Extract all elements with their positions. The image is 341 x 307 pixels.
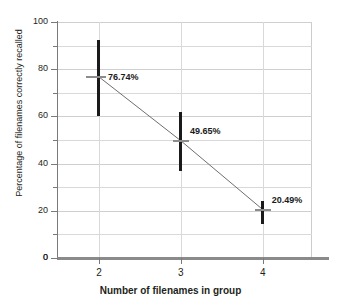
x-axis-tick xyxy=(263,258,264,264)
mean-marker xyxy=(255,209,271,211)
x-axis-line xyxy=(57,257,329,260)
y-axis-tick-label: 60 xyxy=(24,111,48,120)
y-axis-tick-label: 80 xyxy=(24,64,48,73)
y-axis-tick-minor xyxy=(53,46,58,47)
gridline-h xyxy=(58,164,312,165)
y-axis-tick-major xyxy=(51,258,58,259)
chart-container: 0204060801000 234 76.74%49.65%20.49% Per… xyxy=(0,0,341,307)
data-point-value-label: 20.49% xyxy=(272,196,303,205)
y-axis-tick-label: 20 xyxy=(24,206,48,215)
mean-marker xyxy=(86,76,106,78)
data-point-value-label: 49.65% xyxy=(190,127,221,136)
y-axis-tick-label: 40 xyxy=(24,159,48,168)
x-axis-tick-label: 3 xyxy=(171,268,191,278)
x-axis-tick xyxy=(99,258,100,264)
y-axis-title: Percentage of filenames correctly recall… xyxy=(14,8,24,218)
y-axis-tick-minor xyxy=(53,234,58,235)
x-axis-tick xyxy=(181,258,182,264)
gridline-h xyxy=(58,93,312,94)
x-axis-title: Number of filenames in group xyxy=(0,285,341,296)
y-axis-tick-major xyxy=(51,164,58,165)
x-axis-tick-label: 2 xyxy=(89,268,109,278)
gridline-h xyxy=(58,187,312,188)
y-axis-tick-minor xyxy=(53,93,58,94)
gridline-h xyxy=(58,116,312,117)
y-axis-tick-minor xyxy=(53,140,58,141)
data-point-value-label: 76.74% xyxy=(108,73,139,82)
y-axis-tick-major xyxy=(51,116,58,117)
y-axis-tick-label: 100 xyxy=(24,17,48,26)
y-axis-tick-minor xyxy=(53,187,58,188)
error-bar xyxy=(97,40,100,116)
gridline-h xyxy=(58,211,312,212)
y-axis-tick-major xyxy=(51,69,58,70)
gridline-h xyxy=(58,69,312,70)
y-axis-tick-major xyxy=(51,211,58,212)
gridline-h xyxy=(58,22,312,23)
x-axis-tick-label: 4 xyxy=(253,268,273,278)
gridline-h xyxy=(58,234,312,235)
error-bar xyxy=(261,201,264,225)
mean-marker xyxy=(173,140,189,142)
y-axis-tick-label: 0 xyxy=(24,253,48,262)
gridline-h xyxy=(58,46,312,47)
y-axis-tick-major xyxy=(51,22,58,23)
